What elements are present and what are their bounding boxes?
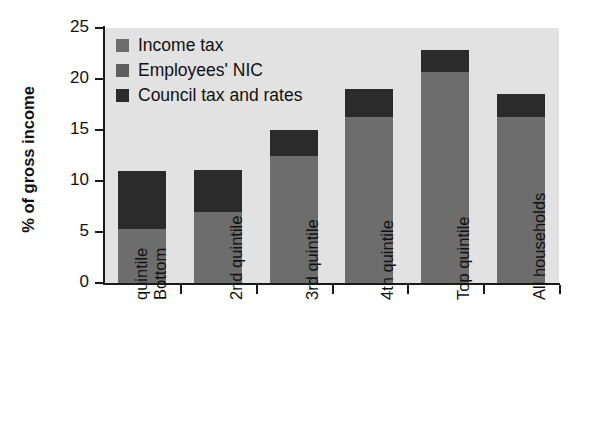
y-tick-10 bbox=[95, 180, 104, 182]
legend-label-council-tax: Council tax and rates bbox=[138, 87, 302, 104]
chart-figure: % of gross income 0510152025 Bottomquint… bbox=[0, 0, 615, 437]
x-label-line: 3rd quintile bbox=[303, 219, 322, 300]
y-tick-20 bbox=[95, 78, 104, 80]
x-tick-1 bbox=[256, 285, 258, 294]
x-tick-4 bbox=[483, 285, 485, 294]
legend-item-council-tax: Council tax and rates bbox=[116, 83, 302, 108]
council-tax-swatch bbox=[116, 89, 129, 102]
bar-segment-council-tax-and-rates bbox=[118, 171, 166, 229]
legend-label-income-tax: Income tax bbox=[138, 37, 224, 54]
x-tick-0 bbox=[180, 285, 182, 294]
bar-segment-council-tax-and-rates bbox=[497, 94, 545, 116]
chart-legend: Income tax Employees' NIC Council tax an… bbox=[116, 33, 302, 108]
bar-segment-council-tax-and-rates bbox=[194, 170, 242, 212]
x-label-line: Bottom bbox=[151, 248, 170, 300]
legend-label-employees-nic: Employees' NIC bbox=[138, 62, 263, 79]
x-label-line: 4th quintile bbox=[378, 220, 397, 300]
bar-segment-council-tax-and-rates bbox=[421, 50, 469, 71]
y-tick-0 bbox=[95, 282, 104, 284]
bar-segment-council-tax-and-rates bbox=[345, 89, 393, 117]
y-tick-25 bbox=[95, 27, 104, 29]
employees-nic-swatch bbox=[116, 64, 129, 77]
y-tick-5 bbox=[95, 231, 104, 233]
bar-segment-council-tax-and-rates bbox=[270, 130, 318, 156]
y-axis-line bbox=[103, 26, 105, 285]
legend-item-income-tax: Income tax bbox=[116, 33, 302, 58]
x-label-line: quintile bbox=[132, 248, 151, 300]
x-label-line: Top quintile bbox=[454, 217, 473, 300]
income-tax-swatch bbox=[116, 39, 129, 52]
y-axis-title: % of gross income bbox=[19, 40, 38, 280]
x-tick-3 bbox=[407, 285, 409, 294]
x-tick-2 bbox=[332, 285, 334, 294]
x-label-line: 2nd quintile bbox=[227, 216, 246, 300]
y-tick-15 bbox=[95, 129, 104, 131]
legend-item-employees-nic: Employees' NIC bbox=[116, 58, 302, 83]
x-label-line: All households bbox=[530, 193, 549, 300]
x-tick-5 bbox=[559, 285, 561, 294]
